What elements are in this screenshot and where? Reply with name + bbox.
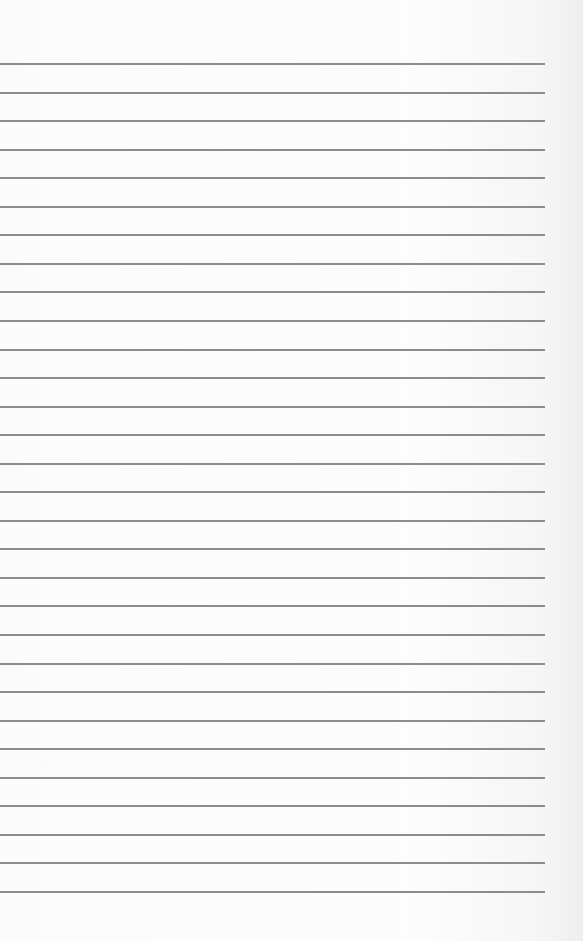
ruled-line <box>0 434 545 436</box>
ruled-line <box>0 263 545 265</box>
ruled-line <box>0 491 545 493</box>
ruled-line <box>0 320 545 322</box>
ruled-line <box>0 720 545 722</box>
ruled-line <box>0 177 545 179</box>
ruled-line <box>0 349 545 351</box>
ruled-line <box>0 777 545 779</box>
ruled-line <box>0 663 545 665</box>
ruled-line <box>0 577 545 579</box>
ruled-line <box>0 120 545 122</box>
ruled-line <box>0 691 545 693</box>
ruled-line <box>0 291 545 293</box>
ruled-line <box>0 463 545 465</box>
ruled-line <box>0 234 545 236</box>
ruled-line <box>0 377 545 379</box>
ruled-line <box>0 862 545 864</box>
ruled-line <box>0 206 545 208</box>
ruled-line <box>0 520 545 522</box>
ruled-line <box>0 406 545 408</box>
ruled-line <box>0 891 545 893</box>
ruled-line <box>0 805 545 807</box>
ruled-line <box>0 149 545 151</box>
ruled-line <box>0 834 545 836</box>
ruled-line <box>0 748 545 750</box>
ruled-line <box>0 548 545 550</box>
ruled-line <box>0 92 545 94</box>
ruled-line <box>0 63 545 65</box>
ruled-line <box>0 605 545 607</box>
lined-paper-sheet <box>0 0 583 941</box>
ruled-line <box>0 634 545 636</box>
